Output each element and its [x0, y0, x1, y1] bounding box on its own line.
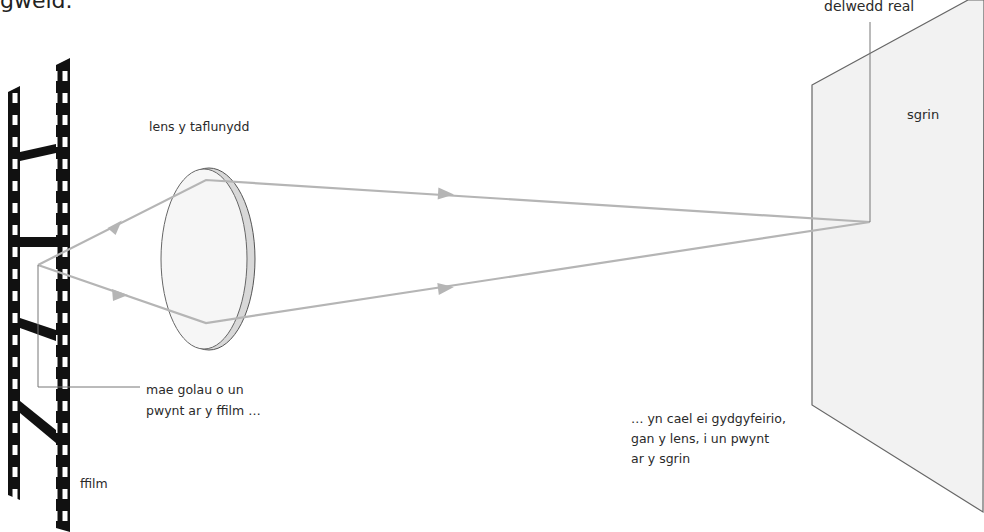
leader-lines — [38, 22, 870, 387]
label-film: ffilm — [80, 475, 108, 492]
film-strip-icon — [8, 58, 70, 532]
screen — [812, 0, 984, 512]
label-source-point: mae golau o un pwynt ar y ffilm … — [146, 379, 261, 421]
label-screen: sgrin — [907, 106, 939, 123]
label-real-image: delwedd real — [824, 0, 914, 15]
label-lens: lens y taflunydd — [149, 118, 250, 135]
label-image-point: … yn cael ei gydgyfeirio, gan y lens, i … — [631, 409, 786, 469]
projector-diagram — [0, 0, 984, 532]
